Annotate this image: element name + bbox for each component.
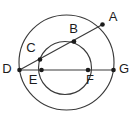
point-dot-E bbox=[39, 68, 44, 73]
point-label-B: B bbox=[69, 21, 78, 36]
point-dot-B bbox=[72, 39, 77, 44]
small-circle bbox=[39, 42, 92, 95]
point-dot-G bbox=[111, 68, 116, 73]
geometry-canvas: A B C D E F G bbox=[0, 0, 137, 118]
point-dot-D bbox=[17, 68, 22, 73]
point-label-D: D bbox=[2, 61, 11, 76]
point-dot-A bbox=[100, 22, 105, 27]
point-label-F: F bbox=[86, 72, 94, 87]
point-label-A: A bbox=[109, 9, 118, 24]
point-label-G: G bbox=[119, 61, 129, 76]
point-dot-C bbox=[38, 57, 43, 62]
point-label-E: E bbox=[29, 72, 38, 87]
point-label-C: C bbox=[26, 40, 35, 55]
geometry-figure: A B C D E F G bbox=[0, 0, 137, 118]
